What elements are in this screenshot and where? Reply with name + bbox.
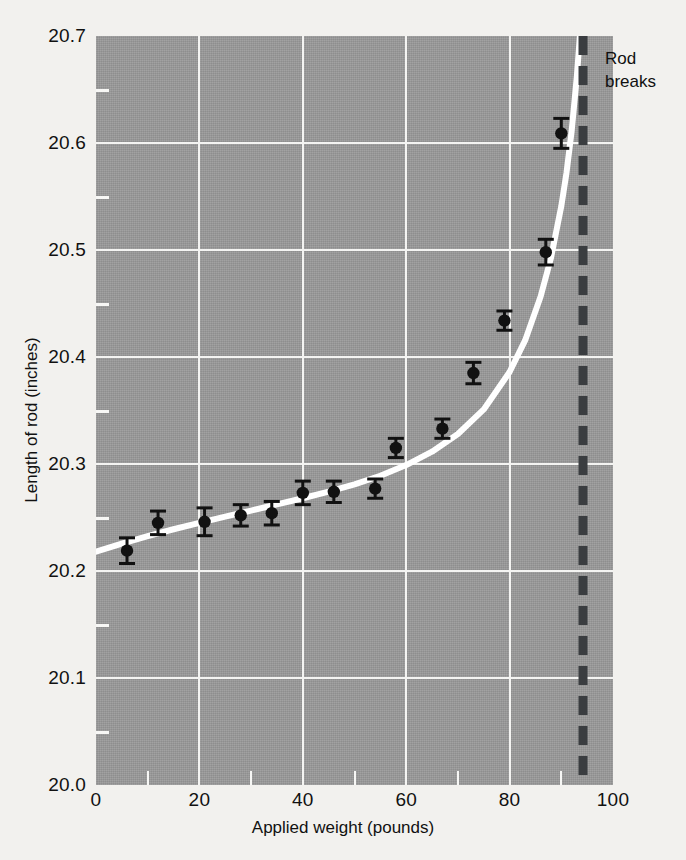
clipped-content bbox=[96, 36, 583, 785]
data-point bbox=[388, 438, 404, 457]
data-point bbox=[326, 481, 342, 502]
data-marker bbox=[297, 487, 309, 499]
data-marker bbox=[235, 509, 247, 521]
data-marker bbox=[467, 367, 479, 379]
data-point bbox=[553, 118, 569, 148]
data-marker bbox=[540, 246, 552, 258]
data-marker bbox=[152, 517, 164, 529]
data-marker bbox=[555, 127, 567, 139]
data-point bbox=[496, 311, 512, 330]
data-point bbox=[233, 505, 249, 526]
data-marker bbox=[390, 442, 402, 454]
data-point bbox=[465, 362, 481, 383]
data-marker bbox=[328, 486, 340, 498]
data-marker bbox=[266, 507, 278, 519]
chart-figure: 20.020.120.220.320.420.520.620.7 0204060… bbox=[0, 0, 686, 860]
data-marker bbox=[498, 314, 510, 326]
data-marker bbox=[198, 516, 210, 528]
data-marker bbox=[121, 544, 133, 556]
data-points-group bbox=[119, 118, 569, 563]
data-marker bbox=[436, 422, 448, 434]
data-point bbox=[197, 508, 213, 536]
data-point bbox=[434, 419, 450, 438]
fit-curve bbox=[96, 36, 580, 552]
data-marker bbox=[369, 482, 381, 494]
data-overlay bbox=[0, 0, 686, 860]
